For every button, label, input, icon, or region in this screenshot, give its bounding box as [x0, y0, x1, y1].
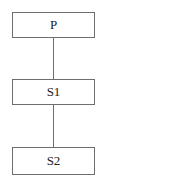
- node-label: P: [50, 17, 57, 33]
- edge-p-s1: [53, 38, 54, 79]
- node-s1: S1: [12, 79, 95, 105]
- edge-s1-s2: [53, 105, 54, 148]
- node-p: P: [12, 12, 95, 38]
- node-s2: S2: [12, 147, 95, 175]
- node-label: S1: [47, 84, 61, 100]
- node-label: S2: [47, 153, 61, 169]
